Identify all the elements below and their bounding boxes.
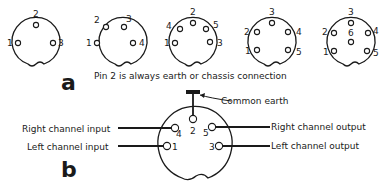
pin-label: 4 [373,26,379,36]
pin-1 [163,142,170,149]
earth-bar [186,90,200,94]
pin-label: 3 [348,7,354,17]
pin [203,26,208,31]
connector-3-pin: 2 1 3 [7,9,64,66]
pin [254,29,259,34]
pin-label: 1 [172,142,178,152]
connector-6-pin: 3 6 2 4 1 5 [322,7,379,66]
pin [331,48,336,53]
pin-label: 2 [244,27,250,37]
pin [285,47,290,52]
pin [285,29,290,34]
pin [365,30,370,35]
panel-label-a: a [61,70,76,95]
pin [190,20,195,25]
pin [50,40,55,45]
pin [364,48,369,53]
pin-label: 4 [139,38,145,48]
pin-label: 4 [296,27,302,37]
right-channel-input-label: Right channel input [22,124,111,134]
pin-label: 3 [209,142,215,152]
pin [348,20,353,25]
common-earth-label: Common earth [221,96,288,106]
pin-label: 4 [176,129,182,139]
pin [207,39,212,44]
pin [348,39,353,44]
connector-5-pin-180: 3 2 4 1 5 [244,7,302,66]
pin-label: 2 [190,126,196,136]
pin [103,24,108,29]
pin [177,26,182,31]
din-connector-diagram: 2 1 3 2 3 1 4 2 4 5 1 3 3 2 4 [0,0,387,190]
pin [254,47,259,52]
pin-label: 2 [322,27,328,37]
right-channel-output-label: Right channel output [271,122,366,132]
pin-label: 1 [164,38,170,48]
pin-label: 1 [323,47,329,57]
pin-label: 1 [245,46,251,56]
pin-label: 4 [166,21,172,31]
pin-2 [189,115,196,122]
pin-5 [208,123,215,130]
pin-label: 2 [94,15,100,25]
pin-label: 6 [348,28,354,38]
pin [33,22,38,27]
pin [94,40,99,45]
pin [172,40,177,45]
pin [331,30,336,35]
pin-label: 5 [203,128,209,138]
pin-label: 3 [126,14,132,24]
pin-label: 2 [33,9,39,19]
left-channel-output-label: Left channel output [271,141,359,151]
pin [130,40,135,45]
pin-label: 3 [269,7,275,17]
pin-label: 5 [296,47,302,57]
pin-label: 5 [213,20,219,30]
connector-5-pin-240: 2 4 5 1 3 [164,7,223,66]
connector-4-pin: 2 3 1 4 [86,14,147,66]
pin-label: 2 [190,7,196,17]
caption-earth: Pin 2 is always earth or chassis connect… [94,71,287,81]
pin-label: 3 [217,38,223,48]
pin-label: 5 [373,48,379,58]
stereo-connector: Common earth 4 2 5 1 3 [118,90,288,180]
pin-label: 1 [7,38,13,48]
arrowhead-icon [200,93,205,98]
pin [121,24,126,29]
left-channel-input-label: Left channel input [27,142,109,152]
pin-label: 1 [86,38,92,48]
panel-label-b: b [61,157,77,182]
pin-label: 3 [58,38,64,48]
pin [269,20,274,25]
pin [15,40,20,45]
pin-3 [215,142,222,149]
